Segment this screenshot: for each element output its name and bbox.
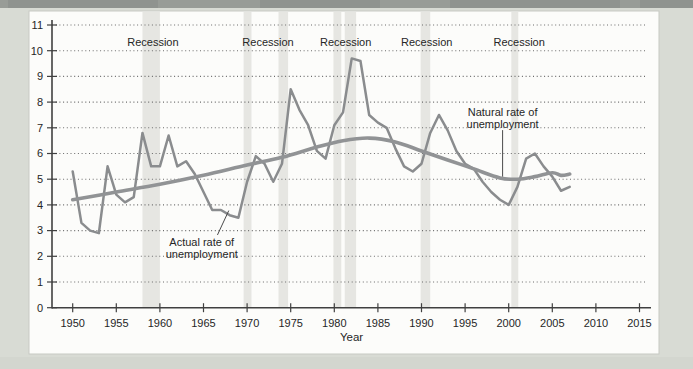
y-tick-label: 5: [37, 173, 43, 185]
recession-label: Recession: [493, 36, 544, 48]
page-top-strip-patch: [640, 0, 693, 8]
page-top-strip-patch: [8, 0, 158, 8]
recession-band: [333, 12, 341, 307]
x-tick-label: 2015: [627, 317, 651, 329]
x-tick-label: 1995: [453, 317, 477, 329]
x-tick-label: 1965: [191, 317, 215, 329]
page-bottom-shade: [0, 357, 693, 369]
recession-label: Recession: [242, 36, 293, 48]
page-top-strip-patch: [260, 0, 380, 8]
x-tick-label: 1950: [60, 317, 84, 329]
unemployment-rate-figure: 0123456789101119501955196019651970197519…: [0, 0, 693, 369]
recession-label: Recession: [401, 36, 452, 48]
x-tick-label: 1985: [366, 317, 390, 329]
natural-rate-annotation-label: Natural rate of: [468, 106, 539, 118]
page-top-strip-patch: [450, 0, 620, 8]
x-tick-label: 1970: [235, 317, 259, 329]
recession-band: [345, 12, 356, 307]
x-tick-label: 1975: [278, 317, 302, 329]
x-tick-label: 1960: [148, 317, 172, 329]
y-tick-label: 8: [37, 96, 43, 108]
y-tick-label: 0: [37, 302, 43, 314]
actual-rate-annotation-label: Actual rate of: [169, 236, 235, 248]
x-tick-label: 2005: [540, 317, 564, 329]
y-tick-label: 9: [37, 70, 43, 82]
natural-rate-annotation-label: unemployment: [467, 118, 539, 130]
y-tick-label: 4: [37, 199, 43, 211]
x-axis-title: Year: [340, 331, 363, 343]
y-tick-label: 6: [37, 147, 43, 159]
recession-label: Recession: [127, 36, 178, 48]
y-tick-label: 1: [37, 276, 43, 288]
chart-panel: [29, 11, 659, 354]
y-tick-label: 3: [37, 224, 43, 236]
y-tick-label: 7: [37, 122, 43, 134]
recession-label: Recession: [320, 36, 371, 48]
recession-band: [511, 12, 518, 307]
y-tick-label: 10: [31, 45, 43, 57]
x-tick-label: 1980: [322, 317, 346, 329]
y-tick-label: 2: [37, 250, 43, 262]
recession-band: [142, 12, 159, 307]
x-tick-label: 1990: [409, 317, 433, 329]
x-tick-label: 1955: [104, 317, 128, 329]
y-tick-label: 11: [32, 19, 43, 31]
x-tick-label: 2000: [496, 317, 520, 329]
x-tick-label: 2010: [584, 317, 608, 329]
actual-rate-annotation-label: unemployment: [166, 248, 238, 260]
recession-band: [244, 12, 252, 307]
